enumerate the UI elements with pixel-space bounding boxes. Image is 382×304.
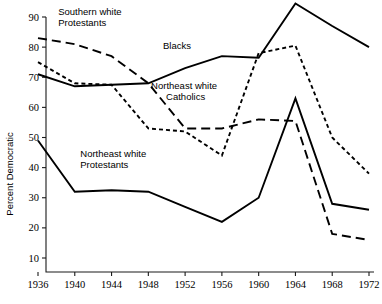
x-tick-label: 1972 — [359, 279, 380, 290]
y-axis-ticks: 102030405060708090 — [29, 12, 47, 264]
series-label-northeast-white-protestants-line2: Protestants — [80, 159, 128, 170]
series-label-southern-white-protestants-line2: Protestants — [58, 17, 106, 28]
x-tick-label: 1948 — [138, 279, 159, 290]
x-axis-ticks: 1936194019441948195219561960196419681972 — [28, 272, 380, 290]
axis-lines — [46, 17, 374, 272]
x-tick-label: 1956 — [211, 279, 232, 290]
y-tick-label: 60 — [29, 102, 40, 113]
series-label-northeast-white-protestants: Northeast white — [80, 148, 146, 159]
y-tick-label: 20 — [29, 222, 40, 233]
y-tick-label: 80 — [29, 42, 40, 53]
y-tick-label: 50 — [29, 132, 40, 143]
y-tick-label: 30 — [29, 192, 40, 203]
line-chart: 102030405060708090 193619401944194819521… — [0, 0, 382, 304]
x-tick-label: 1936 — [28, 279, 49, 290]
y-tick-label: 40 — [29, 162, 40, 173]
x-tick-label: 1944 — [101, 279, 123, 290]
chart-axes — [46, 17, 374, 272]
x-tick-label: 1960 — [248, 279, 269, 290]
x-tick-label: 1968 — [322, 279, 343, 290]
y-axis-title: Percent Democratic — [4, 132, 15, 216]
y-tick-label: 90 — [29, 12, 40, 23]
series-annotations-group: BlacksSouthern whiteProtestantsNortheast… — [58, 6, 217, 170]
series-label-northeast-white-catholics: Northeast white — [151, 80, 217, 91]
chart-container: 102030405060708090 193619401944194819521… — [0, 0, 382, 304]
x-tick-label: 1940 — [64, 279, 85, 290]
x-tick-label: 1964 — [285, 279, 307, 290]
data-series-group — [38, 3, 369, 239]
x-tick-label: 1952 — [175, 279, 196, 290]
series-line-southern-white-protestants — [38, 38, 369, 240]
y-axis-title-group: Percent Democratic — [4, 132, 15, 216]
series-label-northeast-white-catholics-line2: Catholics — [166, 91, 205, 102]
y-tick-label: 10 — [29, 253, 40, 264]
series-label-southern-white-protestants: Southern white — [58, 6, 121, 17]
series-label-blacks: Blacks — [163, 40, 191, 51]
y-tick-label: 70 — [29, 72, 40, 83]
